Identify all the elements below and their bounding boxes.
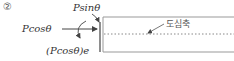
vertical-force-arrow	[92, 14, 99, 22]
beam-diagram	[0, 0, 234, 61]
axis-leader-arrow	[148, 24, 164, 33]
